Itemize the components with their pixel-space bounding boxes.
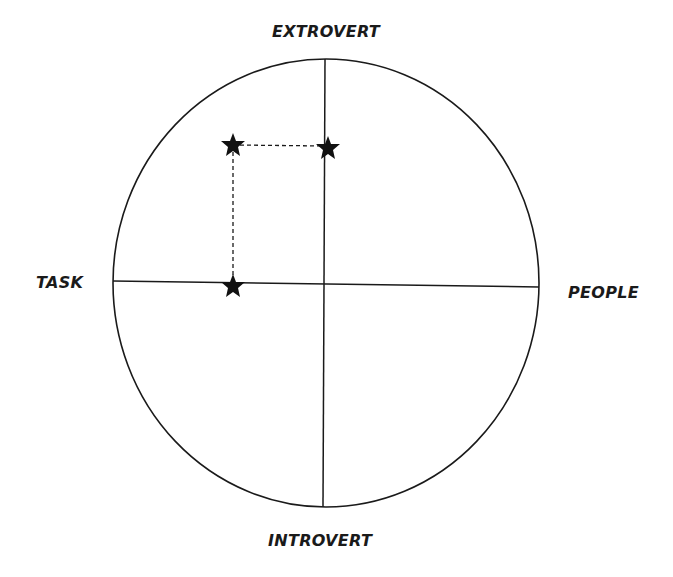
outer-circle — [113, 59, 539, 507]
horizontal-axis — [113, 281, 539, 287]
dashed-connector-horizontal — [233, 145, 327, 146]
star-icon — [316, 136, 340, 159]
quadrant-diagram — [0, 0, 673, 577]
star-icon — [221, 274, 245, 297]
vertical-axis — [323, 59, 325, 507]
